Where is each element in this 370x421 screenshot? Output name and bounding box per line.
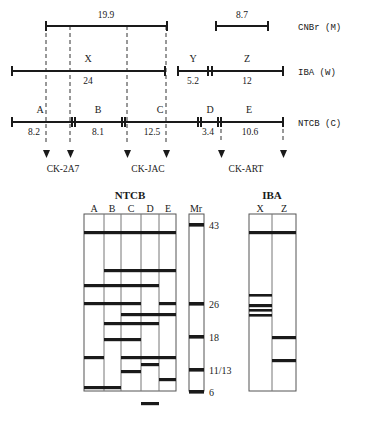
band <box>189 368 204 372</box>
band <box>141 269 159 272</box>
ntcb-segment-name-d: D <box>206 104 213 115</box>
arrowhead <box>218 150 225 158</box>
band <box>104 322 121 325</box>
band <box>272 231 296 234</box>
iba-segment-name-x: X <box>84 53 92 64</box>
band <box>84 302 104 305</box>
arrowhead <box>67 150 74 158</box>
band <box>104 386 121 389</box>
antibody-arrows: CK-2A7 CK-JAC CK-ART <box>43 150 287 174</box>
gel-panel-iba: IBA X Z <box>249 189 296 391</box>
band <box>84 284 104 287</box>
band <box>84 231 104 234</box>
gel-title-iba: IBA <box>262 189 282 201</box>
band <box>272 336 296 339</box>
band <box>121 356 141 359</box>
ladder-label-18: 18 <box>209 332 219 343</box>
ntcb-value-8-2: 8.2 <box>28 127 40 137</box>
row-label-ntcb: NTCB (C) <box>298 119 341 129</box>
peptide-map-diagram: 19.9 8.7 CNBr (M) X 24 Y 5.2 Z 12 IBA <box>12 10 341 174</box>
ladder-label-26: 26 <box>209 299 219 310</box>
band <box>159 313 176 316</box>
row-ntcb: A B C D E 8.2 8.1 12.5 3.4 10.6 NTCB (C) <box>12 104 341 137</box>
band <box>159 231 176 234</box>
ntcb-segment-name-e: E <box>246 104 252 115</box>
row-label-cnbr: CNBr (M) <box>298 23 341 33</box>
ntcb-value-8-1: 8.1 <box>92 127 104 137</box>
antibody-label-ck-jac: CK-JAC <box>131 164 164 174</box>
band <box>272 359 296 362</box>
ladder-label-6: 6 <box>209 387 214 398</box>
band <box>141 363 159 366</box>
band <box>249 294 272 297</box>
row-iba: X 24 Y 5.2 Z 12 IBA (W) <box>12 53 336 86</box>
cnbr-value-8-7: 8.7 <box>236 10 248 20</box>
iba-segment-name-z: Z <box>244 53 250 64</box>
band <box>249 309 272 312</box>
band <box>249 304 272 307</box>
ntcb-value-12-5: 12.5 <box>144 127 161 137</box>
band <box>189 223 204 227</box>
figure-canvas: 19.9 8.7 CNBr (M) X 24 Y 5.2 Z 12 IBA <box>0 0 370 421</box>
band <box>159 356 176 359</box>
arrowhead <box>280 150 287 158</box>
band <box>141 231 159 234</box>
lane-label-x: X <box>256 203 264 214</box>
arrowhead <box>124 150 131 158</box>
band <box>189 390 204 394</box>
cnbr-value-19-9: 19.9 <box>98 10 115 20</box>
gel-panel-ntcb: NTCB A B C D E <box>84 189 176 405</box>
ntcb-value-10-6: 10.6 <box>242 127 259 137</box>
ladder-label-11-13: 11/13 <box>209 365 231 376</box>
band <box>141 322 159 325</box>
iba-value-5-2: 5.2 <box>187 76 199 86</box>
band <box>121 338 141 341</box>
figure-peptide-map-and-gel: 19.9 8.7 CNBr (M) X 24 Y 5.2 Z 12 IBA <box>0 0 370 421</box>
band <box>141 284 159 287</box>
iba-value-12: 12 <box>242 76 252 86</box>
band <box>84 386 104 389</box>
band <box>159 269 176 272</box>
ntcb-value-3-4: 3.4 <box>202 127 214 137</box>
band <box>249 314 272 317</box>
band <box>121 284 141 287</box>
ntcb-segment-name-b: B <box>95 104 102 115</box>
gel-title-ntcb: NTCB <box>115 189 146 201</box>
band <box>121 313 141 316</box>
band <box>189 302 204 306</box>
row-cnbr: 19.9 8.7 CNBr (M) <box>46 10 341 33</box>
lane-label-d: D <box>146 203 153 214</box>
row-label-iba: IBA (W) <box>298 68 336 78</box>
antibody-label-ck-2a7: CK-2A7 <box>47 164 80 174</box>
band <box>104 231 121 234</box>
band <box>121 269 141 272</box>
band <box>141 313 159 316</box>
band <box>159 378 176 381</box>
iba-segment-name-y: Y <box>189 53 196 64</box>
arrowhead <box>43 150 50 158</box>
ntcb-segment-name-c: C <box>157 104 164 115</box>
band <box>121 322 141 325</box>
iba-value-24: 24 <box>83 76 93 86</box>
arrowheads <box>43 150 287 158</box>
gel-bands-ntcb <box>84 231 176 405</box>
antibody-label-ck-art: CK-ART <box>229 164 264 174</box>
band <box>104 269 121 272</box>
band <box>104 302 121 305</box>
band <box>141 356 159 359</box>
band <box>121 370 141 373</box>
band <box>121 231 141 234</box>
gel-panels: NTCB A B C D E <box>84 189 296 405</box>
gel-panel-mr-ladder: Mr 43 26 18 11/13 6 <box>189 203 231 398</box>
band <box>84 356 104 359</box>
band <box>159 302 176 305</box>
lane-label-b: B <box>109 203 116 214</box>
lane-label-e: E <box>165 203 171 214</box>
ladder-title-mr: Mr <box>190 203 203 214</box>
band <box>249 231 272 234</box>
band <box>189 335 204 339</box>
band <box>104 284 121 287</box>
arrowhead <box>163 150 170 158</box>
lane-label-a: A <box>90 203 98 214</box>
band <box>121 302 141 305</box>
